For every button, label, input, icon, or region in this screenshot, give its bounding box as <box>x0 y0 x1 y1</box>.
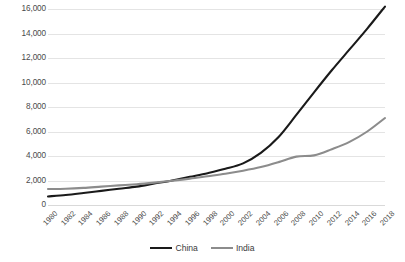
legend-label: China <box>175 243 197 253</box>
y-tick-label: 8,000 <box>2 102 46 111</box>
legend-swatch-india-icon <box>211 247 233 249</box>
legend-swatch-china-icon <box>150 247 172 249</box>
gridline-0 <box>48 205 385 206</box>
chart-legend: ChinaIndia <box>0 243 405 253</box>
legend-label: India <box>236 243 255 253</box>
legend-item-china[interactable]: China <box>150 243 197 253</box>
y-tick-label: 12,000 <box>2 53 46 62</box>
y-tick-label: 10,000 <box>2 78 46 87</box>
y-tick-label: 4,000 <box>2 151 46 160</box>
line-chart: 02,0004,0006,0008,00010,00012,00014,0001… <box>0 0 405 262</box>
y-tick-label: 14,000 <box>2 29 46 38</box>
y-tick-label: 2,000 <box>2 176 46 185</box>
x-axis-tick-labels: 1980198219841986198819901992199419961998… <box>48 209 385 245</box>
series-line-india <box>48 118 385 189</box>
y-tick-label: 6,000 <box>2 127 46 136</box>
plot-area <box>48 9 385 205</box>
y-tick-label: 16,000 <box>2 4 46 13</box>
series-line-china <box>48 7 385 197</box>
legend-item-india[interactable]: India <box>211 243 255 253</box>
y-tick-label: 0 <box>2 200 46 209</box>
series-lines <box>48 9 385 205</box>
